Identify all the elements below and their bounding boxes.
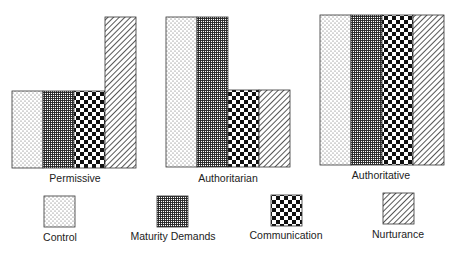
group-authoritative (320, 15, 444, 165)
bar-authoritarian-communication (228, 90, 259, 167)
bar-authoritative-nurturance (413, 15, 444, 165)
legend-swatch-control (44, 196, 75, 227)
bar-authoritarian-nurturance (259, 90, 290, 167)
bar-authoritarian-control (166, 17, 197, 167)
legend-label-nurturance: Nurturance (372, 228, 424, 240)
bar-permissive-communication (74, 91, 105, 168)
group-permissive (12, 17, 136, 168)
legend-label-communication: Communication (250, 229, 323, 241)
bar-authoritative-maturity-demands (351, 15, 382, 165)
bar-permissive-maturity-demands (43, 91, 74, 168)
group-label-authoritarian: Authoritarian (198, 172, 258, 184)
legend-swatch-maturity-demands (157, 196, 188, 227)
legend-swatch-communication (271, 195, 302, 226)
group-label-authoritative: Authoritative (352, 169, 410, 181)
group-authoritarian (166, 17, 290, 167)
chart-canvas (0, 0, 455, 253)
legend-label-maturity-demands: Maturity Demands (130, 230, 215, 242)
legend-label-control: Control (43, 231, 77, 243)
bar-permissive-control (12, 91, 43, 168)
bar-authoritative-communication (382, 15, 413, 165)
legend-swatch-nurturance (383, 193, 414, 224)
legend (44, 193, 414, 227)
group-label-permissive: Permissive (49, 172, 100, 184)
bar-authoritative-control (320, 15, 351, 165)
bar-authoritarian-maturity-demands (197, 17, 228, 167)
bar-permissive-nurturance (105, 17, 136, 168)
